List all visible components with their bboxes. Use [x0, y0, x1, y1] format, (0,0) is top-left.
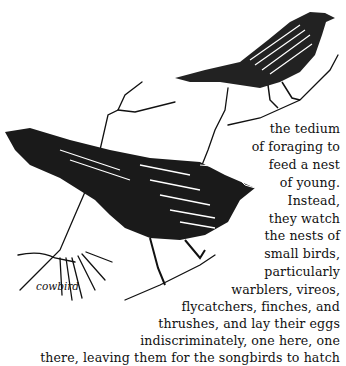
text-line: flycatchers, finches, and — [181, 299, 340, 315]
text-line: warblers, vireos, — [231, 282, 340, 298]
text-line: there, leaving them for the songbirds to… — [40, 350, 340, 366]
text-line: particularly — [264, 264, 340, 280]
text-line: of young. — [280, 175, 340, 191]
text-line: the nests of — [264, 228, 340, 244]
figure-caption: cowbird — [36, 280, 79, 292]
text-line: indiscriminately, one here, one — [140, 333, 340, 349]
cowbird-icon — [5, 128, 255, 285]
perched-songbird-icon — [175, 12, 335, 108]
text-line: the tedium — [270, 121, 340, 137]
text-line: they watch — [269, 211, 340, 227]
text-line: feed a nest — [269, 157, 340, 173]
text-line: small birds, — [264, 246, 340, 262]
text-line: of foraging to — [252, 139, 340, 155]
text-line: thrushes, and lay their eggs — [158, 316, 340, 332]
text-line: Instead, — [288, 193, 340, 209]
